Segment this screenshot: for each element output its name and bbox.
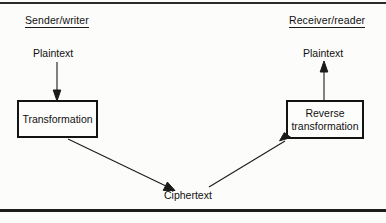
- heading-sender-writer: Sender/writer: [25, 14, 89, 28]
- top-divider-rule: [0, 2, 386, 4]
- box-reverse-transformation-line2: transformation: [291, 120, 358, 132]
- label-plaintext-sender: Plaintext: [33, 47, 73, 59]
- box-transformation-label: Transformation: [22, 113, 92, 125]
- bottom-divider-rule: [0, 209, 386, 212]
- arrow-ciphertext-to-reverse-transformation-shaft: [209, 141, 285, 187]
- heading-receiver-reader: Receiver/reader: [289, 14, 365, 28]
- cipher-flow-figure: Sender/writer Receiver/reader Plaintext …: [0, 0, 386, 223]
- box-transformation: Transformation: [17, 100, 98, 138]
- arrow-transformation-to-ciphertext-shaft: [68, 139, 168, 187]
- label-plaintext-receiver: Plaintext: [303, 47, 343, 59]
- label-ciphertext: Ciphertext: [164, 189, 212, 201]
- box-reverse-transformation-label: Reverse transformation: [291, 107, 358, 131]
- box-reverse-transformation: Reverse transformation: [286, 100, 364, 139]
- box-reverse-transformation-line1: Reverse: [305, 107, 344, 119]
- arrow-reverse-transformation-to-plaintext-head: [320, 61, 328, 72]
